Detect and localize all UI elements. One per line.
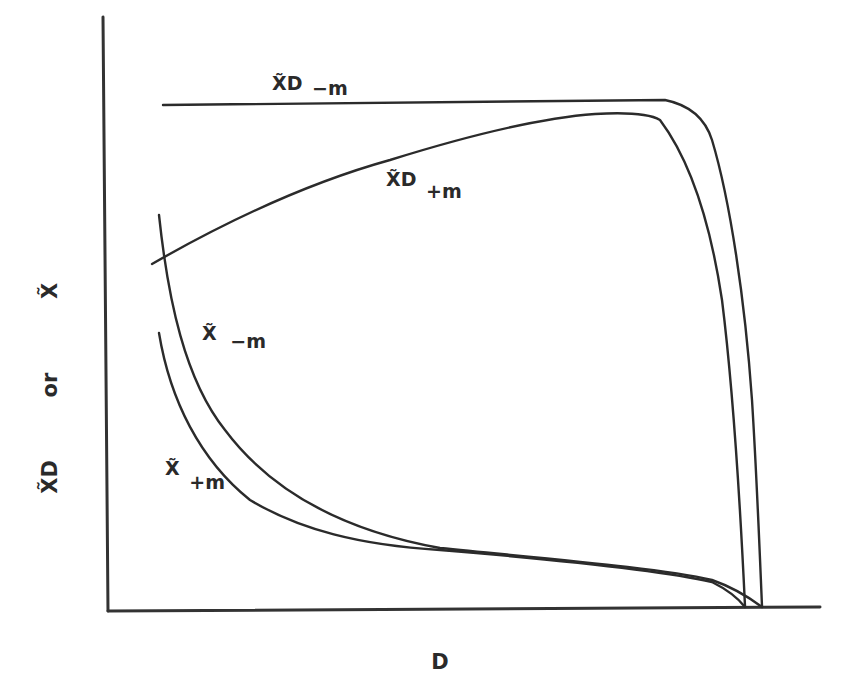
y-axis-title-or: or <box>38 372 62 397</box>
y-axis-title-part1: X̃D <box>37 460 62 494</box>
y-axis-title: X̃D or X̃ <box>37 283 62 494</box>
x-axis <box>108 607 820 611</box>
y-axis <box>103 17 108 611</box>
chart: X̃D −m X̃D +m X̃ −m X̃ +m D X̃D or X̃ <box>0 0 849 693</box>
label-xd-minus-m: X̃D −m <box>272 72 348 99</box>
label-x-plus-m: X̃ +m <box>165 457 225 493</box>
curve-xd-minus-m <box>163 100 762 606</box>
curve-x-minus-m <box>159 215 762 607</box>
curve-x-plus-m <box>159 333 745 607</box>
x-axis-title: D <box>431 650 448 674</box>
y-axis-title-part2: X̃ <box>37 283 62 299</box>
label-x-minus-m: X̃ −m <box>202 322 266 352</box>
label-xd-plus-m: X̃D +m <box>386 168 462 202</box>
